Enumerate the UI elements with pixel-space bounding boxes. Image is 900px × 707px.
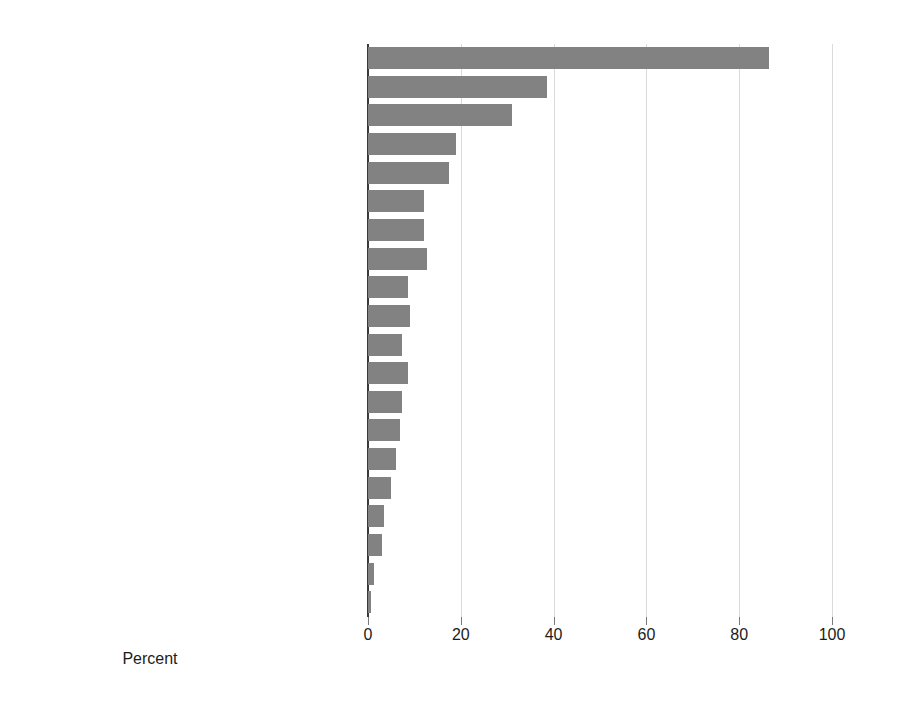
bar xyxy=(368,47,769,69)
x-tick-mark xyxy=(646,617,647,625)
plot-area xyxy=(368,44,832,617)
bar-row xyxy=(368,502,832,531)
bar-row xyxy=(368,273,832,302)
bar xyxy=(368,248,427,270)
bar-row xyxy=(368,560,832,589)
bar-row xyxy=(368,359,832,388)
x-tick-label: 20 xyxy=(431,626,491,644)
bar xyxy=(368,219,424,241)
x-tick-label: 0 xyxy=(338,626,398,644)
bar-row xyxy=(368,216,832,245)
bar xyxy=(368,334,402,356)
gridline-100 xyxy=(832,44,833,617)
x-tick-mark xyxy=(739,617,740,625)
x-tick-mark xyxy=(832,617,833,625)
bar-row xyxy=(368,187,832,216)
bar xyxy=(368,505,384,527)
bar-row xyxy=(368,159,832,188)
x-axis-title-text: Percent xyxy=(122,650,177,667)
bar-row xyxy=(368,101,832,130)
bar-row xyxy=(368,331,832,360)
x-tick-label: 40 xyxy=(524,626,584,644)
bar xyxy=(368,190,424,212)
bar xyxy=(368,391,402,413)
bar-chart-figure: HypertensionDiabetes, with insulinConges… xyxy=(0,0,900,707)
x-tick-mark xyxy=(554,617,555,625)
bar-row xyxy=(368,531,832,560)
bar xyxy=(368,477,391,499)
bar-row xyxy=(368,588,832,617)
bar-row xyxy=(368,302,832,331)
bar-row xyxy=(368,416,832,445)
bar xyxy=(368,419,400,441)
x-tick-mark xyxy=(461,617,462,625)
x-tick-label: 60 xyxy=(616,626,676,644)
bar-row xyxy=(368,73,832,102)
bar xyxy=(368,133,456,155)
bar-row xyxy=(368,474,832,503)
bar xyxy=(368,534,382,556)
bar-row xyxy=(368,245,832,274)
bar xyxy=(368,448,396,470)
bar xyxy=(368,362,408,384)
bar-row xyxy=(368,130,832,159)
x-axis-title: Percent xyxy=(0,650,900,668)
bar xyxy=(368,76,547,98)
scan-artifact xyxy=(660,6,664,23)
bar-row xyxy=(368,44,832,73)
bar xyxy=(368,162,449,184)
bar xyxy=(368,563,374,585)
bar xyxy=(368,104,512,126)
bar-row xyxy=(368,388,832,417)
x-tick-mark xyxy=(368,617,369,625)
bar xyxy=(368,305,410,327)
x-tick-label: 100 xyxy=(802,626,862,644)
bar-row xyxy=(368,445,832,474)
x-tick-label: 80 xyxy=(709,626,769,644)
bar xyxy=(368,591,371,613)
bar xyxy=(368,276,408,298)
